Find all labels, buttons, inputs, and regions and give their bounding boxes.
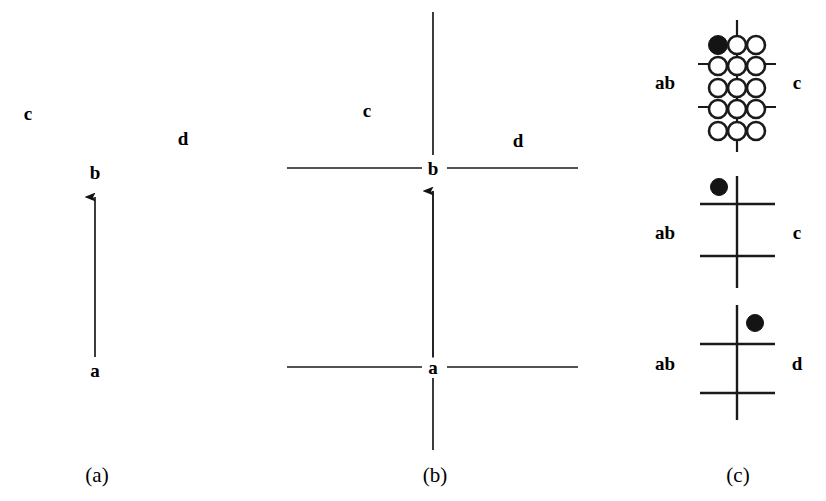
- lattice-open-circle: [728, 100, 746, 118]
- caption-b: (b): [423, 465, 448, 486]
- panel-c: ab c ab c ab d: [615, 0, 826, 501]
- panel-b: c d b a: [275, 0, 615, 501]
- lattice-open-circle: [709, 79, 727, 97]
- cross-upper-left-dot-right-label: c: [791, 223, 803, 242]
- lattice-open-circle: [728, 79, 746, 97]
- cross-upper-right-dot-right-label: d: [790, 354, 805, 373]
- panel-a-label-b: b: [88, 163, 103, 182]
- lattice-open-circle: [728, 36, 746, 54]
- cross-diagram-upper-left-dot: [700, 176, 775, 288]
- lattice-left-label: ab: [653, 73, 677, 92]
- lattice-open-circle: [747, 57, 765, 75]
- lattice-open-circle: [747, 100, 765, 118]
- lattice-diagram: [698, 20, 776, 152]
- lattice-open-circle: [747, 122, 765, 140]
- lattice-open-circle: [728, 57, 746, 75]
- lattice-filled-circle: [709, 36, 728, 55]
- panel-a-label-a: a: [88, 361, 102, 380]
- lattice-open-circle: [747, 79, 765, 97]
- panel-b-label-d: d: [511, 131, 526, 150]
- panel-b-graphics: [275, 0, 615, 501]
- cross-diagram-upper-right-dot: [700, 305, 775, 420]
- lattice-open-circle: [709, 122, 727, 140]
- panel-a: c d b a: [0, 0, 275, 501]
- lattice-open-circle: [709, 100, 727, 118]
- caption-a: (a): [85, 465, 108, 486]
- cross-filled-dot: [711, 179, 728, 196]
- panel-b-label-b: b: [426, 159, 441, 178]
- lattice-open-circle: [728, 122, 746, 140]
- caption-c: (c): [726, 465, 749, 486]
- panel-b-label-a: a: [426, 358, 440, 377]
- panel-a-label-d: d: [176, 129, 191, 148]
- lattice-open-circle: [709, 57, 727, 75]
- lattice-right-label: c: [791, 73, 803, 92]
- lattice-open-circle: [747, 36, 765, 54]
- figure-container: c d b a c d b a: [0, 0, 826, 501]
- panel-a-label-c: c: [22, 104, 34, 123]
- panel-a-graphics: [0, 0, 275, 501]
- cross-upper-right-dot-left-label: ab: [653, 354, 677, 373]
- cross-filled-dot: [747, 315, 764, 332]
- panel-b-label-c: c: [361, 101, 373, 120]
- cross-upper-left-dot-left-label: ab: [653, 223, 677, 242]
